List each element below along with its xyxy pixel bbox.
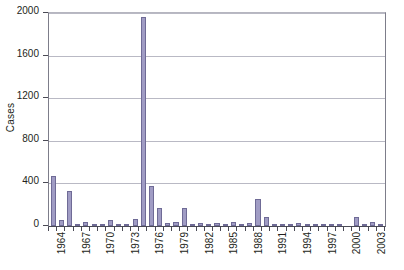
x-axis-tick-mark: [105, 227, 106, 231]
bars-layer: [49, 13, 385, 226]
bar: [157, 208, 162, 226]
x-axis-tick-mark: [343, 227, 344, 231]
x-axis-tick-mark: [114, 227, 115, 231]
bar: [124, 224, 129, 226]
bar-chart: Cases 0400800120016002000 19641967197019…: [0, 0, 404, 270]
x-axis-tick-mark: [187, 227, 188, 231]
bar: [296, 223, 301, 226]
x-axis-tick-mark: [286, 227, 287, 231]
x-axis-tick-mark: [155, 227, 156, 231]
x-axis-tick-mark: [376, 227, 377, 231]
x-axis-tick-mark: [179, 227, 180, 231]
x-axis-tick-label: 1988: [253, 232, 264, 254]
bar: [173, 222, 178, 226]
x-axis-tick-mark: [351, 227, 352, 231]
x-axis-tick-label: 1973: [130, 232, 141, 254]
bar: [108, 220, 113, 226]
y-axis-tick-label: 2000: [17, 5, 39, 16]
x-axis-tick-label: 1964: [56, 232, 67, 254]
x-axis-tick-mark: [163, 227, 164, 231]
y-axis-tick-label: 1200: [17, 90, 39, 101]
bar: [247, 223, 252, 226]
x-axis-tick-mark: [261, 227, 262, 231]
bar: [272, 224, 277, 226]
x-axis-tick-mark: [327, 227, 328, 231]
x-axis-tick-mark: [122, 227, 123, 231]
x-axis-tick-mark: [204, 227, 205, 231]
x-axis-tick-mark: [171, 227, 172, 231]
x-axis-tick-label: 1982: [204, 232, 215, 254]
bar: [321, 224, 326, 226]
y-axis-title-label: Cases: [6, 103, 17, 132]
x-axis-tick-mark: [138, 227, 139, 231]
bar: [59, 220, 64, 226]
bar: [198, 223, 203, 226]
x-axis-tick-label: 1970: [105, 232, 116, 254]
bar: [100, 224, 105, 226]
x-axis-tick-mark: [236, 227, 237, 231]
bar: [288, 224, 293, 226]
x-axis-tick-mark: [146, 227, 147, 231]
bar: [141, 17, 146, 226]
bar: [92, 224, 97, 226]
bar: [165, 223, 170, 226]
x-axis-tick-mark: [294, 227, 295, 231]
bar: [75, 224, 80, 226]
x-axis-tick-label: 1979: [179, 232, 190, 254]
x-axis-tick-mark: [302, 227, 303, 231]
bar: [354, 217, 359, 226]
x-axis-tick-label: 1991: [277, 232, 288, 254]
x-axis-tick-label: 1976: [154, 232, 165, 254]
bar: [182, 208, 187, 226]
bar: [223, 224, 228, 226]
bar: [133, 219, 138, 226]
x-axis-tick-label: 1967: [81, 232, 92, 254]
bar: [206, 224, 211, 226]
x-axis-tick-label: 2000: [351, 232, 362, 254]
x-axis-tick-label: 1994: [302, 232, 313, 254]
y-axis-tick-label: 0: [33, 218, 39, 229]
bar: [378, 224, 383, 226]
bar: [337, 224, 342, 226]
bar: [239, 224, 244, 226]
bar: [231, 222, 236, 226]
x-axis-tick-mark: [269, 227, 270, 231]
x-axis-tick-mark: [245, 227, 246, 231]
x-axis-tick-mark: [212, 227, 213, 231]
x-axis-tick-mark: [81, 227, 82, 231]
bar: [329, 224, 334, 226]
bar: [370, 222, 375, 226]
x-axis-tick-mark: [253, 227, 254, 231]
x-axis-tick-mark: [359, 227, 360, 231]
bar: [264, 217, 269, 226]
x-axis-tick-mark: [56, 227, 57, 231]
bar: [280, 224, 285, 226]
bar: [305, 224, 310, 226]
x-axis-tick-mark: [228, 227, 229, 231]
bar: [116, 224, 121, 226]
bar: [362, 224, 367, 226]
x-axis-tick-mark: [368, 227, 369, 231]
bar: [255, 199, 260, 226]
x-axis-tick-mark: [220, 227, 221, 231]
y-axis-tick-label: 400: [22, 175, 39, 186]
x-axis-tick-label: 1985: [228, 232, 239, 254]
bar: [67, 191, 72, 226]
bar: [214, 223, 219, 226]
x-axis-tick-mark: [318, 227, 319, 231]
x-axis-tick-mark: [48, 227, 49, 231]
bar: [51, 176, 56, 226]
x-axis-tick-mark: [97, 227, 98, 231]
plot-area: [48, 12, 386, 227]
x-axis-tick-mark: [130, 227, 131, 231]
y-axis-title: Cases: [0, 0, 22, 235]
x-axis-tick-mark: [89, 227, 90, 231]
bar: [83, 222, 88, 226]
x-axis-tick-mark: [196, 227, 197, 231]
x-axis-tick-mark: [310, 227, 311, 231]
x-axis-tick-mark: [335, 227, 336, 231]
x-axis-tick-label: 2003: [376, 232, 387, 254]
bar: [190, 224, 195, 226]
y-axis-tick-label: 800: [22, 133, 39, 144]
x-axis-tick-mark: [384, 227, 385, 231]
